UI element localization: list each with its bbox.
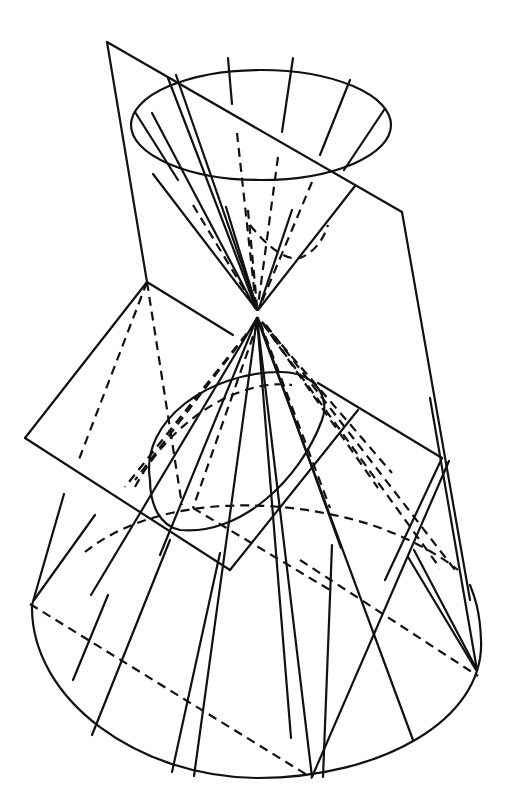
upper-cone-generators (135, 58, 384, 310)
lower-cone-hidden-generators (125, 322, 455, 570)
tilted-cutting-plane (25, 282, 442, 580)
double-cone-diagram (0, 0, 515, 795)
diagram-canvas (0, 0, 515, 795)
lower-cone-generators (32, 318, 477, 777)
upper-cone-rim (131, 70, 391, 180)
